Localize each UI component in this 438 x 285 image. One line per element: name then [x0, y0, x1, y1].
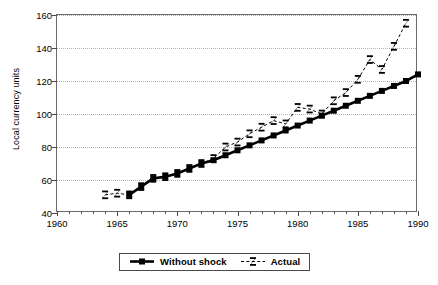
data-point	[295, 123, 301, 129]
series-actual	[102, 19, 409, 199]
data-point	[331, 108, 337, 114]
legend-swatch-dashed-bowtie-icon	[240, 256, 266, 267]
data-point	[355, 75, 361, 84]
data-point	[331, 97, 337, 106]
data-point	[367, 55, 373, 64]
y-axis-tick-label: 120	[36, 76, 52, 87]
data-point	[367, 93, 373, 99]
data-point	[283, 128, 289, 134]
x-axis-tick-label: 1965	[107, 218, 128, 229]
data-point	[403, 19, 409, 28]
y-axis-tick-label: 100	[36, 109, 52, 120]
data-point	[259, 123, 265, 132]
data-point	[391, 83, 397, 89]
chart-figure: Local currency units 406080100120140160 …	[0, 0, 438, 285]
legend-label: Without shock	[160, 256, 227, 267]
series-layer	[57, 15, 418, 213]
data-point	[271, 132, 277, 138]
x-axis-tick-major	[418, 211, 419, 216]
data-point	[343, 103, 349, 109]
data-point	[391, 42, 397, 51]
data-point	[403, 78, 409, 84]
data-point	[247, 142, 253, 148]
data-point	[114, 189, 120, 198]
x-axis-tick-label: 1985	[347, 218, 368, 229]
data-point	[283, 120, 289, 129]
y-axis-tick-label: 140	[36, 43, 52, 54]
data-point	[415, 71, 421, 77]
plot-area: 406080100120140160 196019651970197519801…	[56, 14, 417, 212]
x-axis-tick-label: 1975	[227, 218, 248, 229]
data-point	[235, 138, 241, 147]
y-axis-tick-label: 60	[41, 175, 52, 186]
legend-label: Actual	[271, 256, 301, 267]
x-axis-tick-label: 1980	[287, 218, 308, 229]
x-axis-tick-label: 1960	[46, 218, 67, 229]
legend-entry[interactable]: Actual	[240, 256, 301, 267]
data-point	[222, 143, 228, 152]
x-axis-tick-label: 1970	[167, 218, 188, 229]
legend-entry[interactable]: Without shock	[129, 256, 227, 267]
data-point	[235, 147, 241, 153]
y-axis-title: Local currency units	[11, 39, 21, 179]
data-point	[307, 118, 313, 124]
y-axis-tick-label: 40	[41, 208, 52, 219]
data-point	[259, 137, 265, 143]
y-axis-tick-label: 160	[36, 10, 52, 21]
series-without-shock	[126, 71, 421, 197]
data-point	[343, 88, 349, 97]
data-point	[355, 98, 361, 104]
data-point	[222, 152, 228, 158]
data-point	[379, 65, 385, 74]
y-axis-tick-label: 80	[41, 142, 52, 153]
x-axis-tick-label: 1990	[407, 218, 428, 229]
chart-legend: Without shockActual	[119, 253, 310, 271]
legend-swatch-solid-square-icon	[129, 256, 155, 267]
data-point	[271, 116, 277, 125]
data-point	[307, 105, 313, 114]
data-point	[247, 130, 253, 139]
data-point	[379, 88, 385, 94]
